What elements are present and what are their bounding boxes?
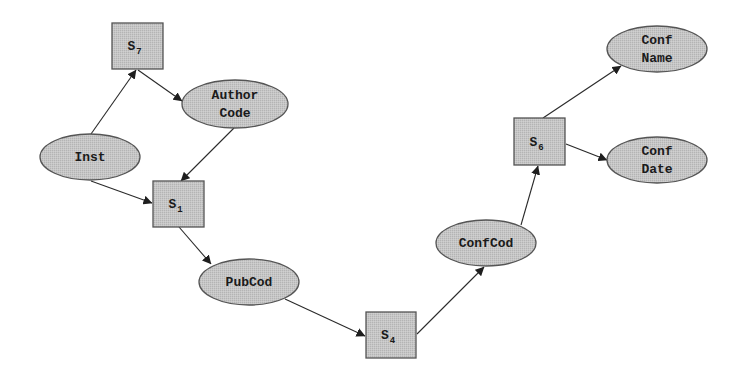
node-label-line: Name [641,51,672,66]
node-pub-cod[interactable]: PubCod [199,259,299,305]
node-s1[interactable]: S1 [153,181,204,227]
edge-inst-to-s7 [91,70,136,134]
edge-pub-cod-to-s4 [285,299,365,336]
node-label-line: Conf [641,33,672,48]
node-label-line: Author [212,88,259,103]
edge-s1-to-pub-cod [179,227,211,264]
node-label-line: Conf [641,144,672,159]
box-shape [366,312,416,358]
node-conf-date[interactable]: ConfDate [607,137,707,183]
node-author-code[interactable]: AuthorCode [182,80,288,128]
node-s4[interactable]: S4 [366,312,416,358]
node-label-line: Date [641,162,672,177]
box-shape [112,23,163,69]
node-inst[interactable]: Inst [40,134,140,180]
edge-s7-to-author-code [138,70,182,101]
edge-s4-to-conf-cod [417,267,484,334]
node-s6[interactable]: S6 [514,118,565,165]
node-label-line: ConfCod [459,236,514,251]
diagram-canvas: S7AuthorCodeInstS1PubCodS4ConfCodS6ConfN… [0,0,740,380]
edge-s6-to-conf-date [566,144,607,160]
node-label-line: Code [219,106,250,121]
box-shape [153,181,204,227]
edge-s6-to-conf-name [543,66,621,118]
edge-conf-cod-to-s6 [521,166,538,225]
box-shape [514,118,565,165]
node-s7[interactable]: S7 [112,23,163,69]
node-conf-cod[interactable]: ConfCod [436,220,536,266]
node-label-line: Inst [74,150,105,165]
edge-inst-to-s1 [91,181,152,203]
edge-author-code-to-s1 [181,128,234,181]
nodes-layer: S7AuthorCodeInstS1PubCodS4ConfCodS6ConfN… [40,23,707,358]
node-label-line: PubCod [226,275,273,290]
node-conf-name[interactable]: ConfName [607,26,707,72]
